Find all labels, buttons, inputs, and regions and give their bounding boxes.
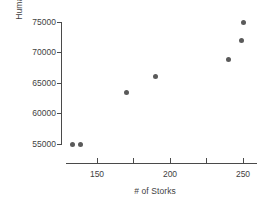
y-axis-tick-label: 65000	[20, 79, 56, 88]
data-point	[241, 20, 246, 25]
x-axis-tick-label: 250	[223, 170, 263, 179]
x-axis-tick-label: 150	[77, 170, 117, 179]
x-axis-tick-label: 200	[150, 170, 190, 179]
data-point	[124, 90, 129, 95]
data-point	[70, 142, 75, 147]
y-axis-tick-label: 60000	[20, 109, 56, 118]
y-axis-title: Human Population	[12, 0, 26, 42]
y-axis-tick-label: 55000	[20, 140, 56, 149]
y-axis-tick-label: 70000	[20, 48, 56, 57]
scatter-chart: 5500060000650007000075000 150200250 Huma…	[0, 0, 272, 207]
x-axis-title: # of Storks	[60, 186, 250, 196]
